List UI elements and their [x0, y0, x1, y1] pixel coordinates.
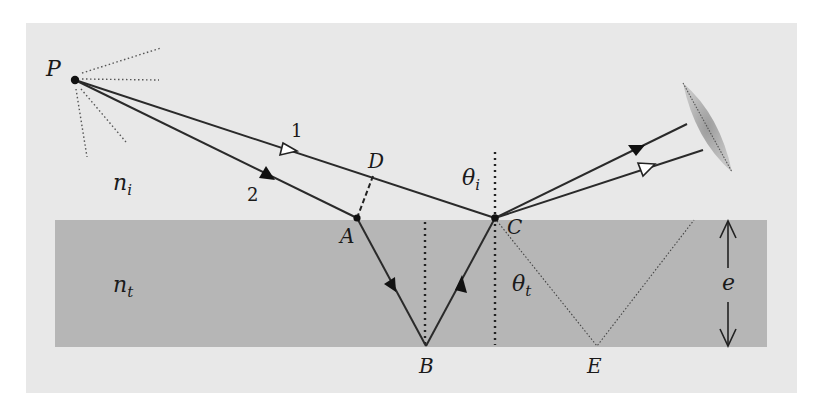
label-C: C — [507, 215, 522, 239]
label-B: B — [418, 354, 434, 378]
label-A: A — [338, 224, 354, 248]
label-ray-2: 2 — [247, 184, 258, 205]
label-P: P — [45, 56, 62, 81]
point-C — [491, 214, 499, 222]
film-slab — [55, 220, 767, 347]
thin-film-diagram: P 1 2 D A B C E ni nt θi θt e — [0, 0, 820, 414]
label-ray-1: 1 — [291, 120, 302, 141]
point-A — [353, 214, 360, 221]
label-D: D — [367, 149, 384, 173]
point-P — [71, 76, 79, 84]
label-E: E — [586, 354, 602, 378]
label-thickness-e: e — [722, 270, 735, 295]
